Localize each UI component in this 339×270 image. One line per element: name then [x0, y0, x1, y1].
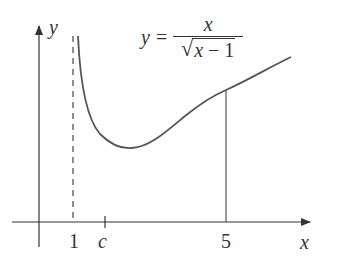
function-equation: y = x √ x − 1 — [141, 14, 243, 60]
tick-label-c: c — [98, 231, 107, 251]
radicand-rest: − 1 — [203, 39, 234, 61]
equation-denominator: √ x − 1 — [181, 37, 235, 60]
tick-label-1: 1 — [69, 231, 79, 251]
radicand: x − 1 — [192, 38, 235, 60]
tick-label-5: 5 — [221, 231, 231, 251]
equation-equals: = — [156, 26, 167, 49]
x-axis-label: x — [300, 232, 309, 252]
equation-numerator: x — [204, 14, 213, 36]
y-axis-label: y — [49, 17, 58, 37]
equation-lhs: y — [141, 26, 150, 49]
radicand-variable: x — [194, 39, 203, 61]
equation-fraction: x √ x − 1 — [173, 14, 243, 60]
